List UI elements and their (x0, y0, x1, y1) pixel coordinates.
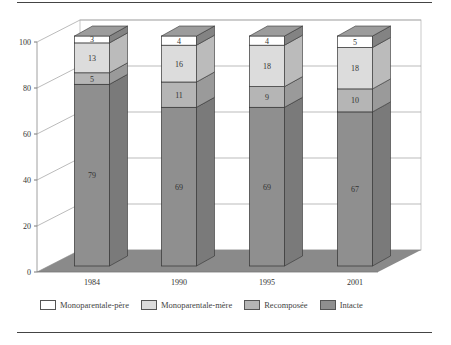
y-tick-label: 0 (27, 268, 31, 277)
data-label: 79 (88, 171, 96, 180)
y-tick-label: 80 (23, 84, 31, 93)
x-tick-label: 1995 (259, 278, 275, 287)
legend-swatch-recomposee (244, 300, 260, 310)
legend-swatch-mere (141, 300, 157, 310)
data-label: 4 (265, 37, 269, 46)
data-label: 69 (175, 183, 183, 192)
data-label: 13 (88, 54, 96, 63)
y-tick-label: 100 (19, 38, 31, 47)
data-label: 11 (175, 91, 183, 100)
y-tick-label: 40 (23, 176, 31, 185)
data-label: 5 (353, 38, 357, 47)
data-label: 67 (351, 185, 359, 194)
data-label: 9 (265, 93, 269, 102)
legend-item-intacte: Intacte (320, 300, 363, 310)
bar-segment: 79 (75, 74, 128, 266)
y-tick-label: 20 (23, 222, 31, 231)
x-tick-label: 1984 (84, 278, 100, 287)
bar-segment: 69 (250, 97, 303, 266)
legend-label-mere: Monoparentale-mère (161, 300, 232, 310)
legend-swatch-intacte (320, 300, 336, 310)
data-label: 18 (351, 64, 359, 73)
data-label: 16 (175, 60, 183, 69)
legend-item-pere: Monoparentale-père (40, 300, 129, 310)
data-label: 69 (263, 183, 271, 192)
legend-label-pere: Monoparentale-père (60, 300, 129, 310)
x-tick-label: 2001 (347, 278, 363, 287)
data-label: 10 (351, 96, 359, 105)
x-tick-label: 1990 (171, 278, 187, 287)
y-tick-label: 60 (23, 130, 31, 139)
bottom-rule (17, 332, 432, 333)
stacked-3d-bar-chart: 0204060801007951331984691116419906991841… (0, 0, 451, 345)
legend-item-recomposee: Recomposée (244, 300, 307, 310)
data-label: 4 (177, 37, 181, 46)
legend-swatch-pere (40, 300, 56, 310)
bar-segment: 67 (338, 102, 391, 266)
legend-label-recomposee: Recomposée (264, 300, 307, 310)
chart-legend: Monoparentale-père Monoparentale-mère Re… (40, 300, 375, 310)
legend-item-mere: Monoparentale-mère (141, 300, 232, 310)
legend-label-intacte: Intacte (340, 300, 363, 310)
data-label: 18 (263, 62, 271, 71)
bar-segment: 69 (162, 97, 215, 266)
data-label: 5 (90, 75, 94, 84)
data-label: 3 (90, 35, 94, 44)
